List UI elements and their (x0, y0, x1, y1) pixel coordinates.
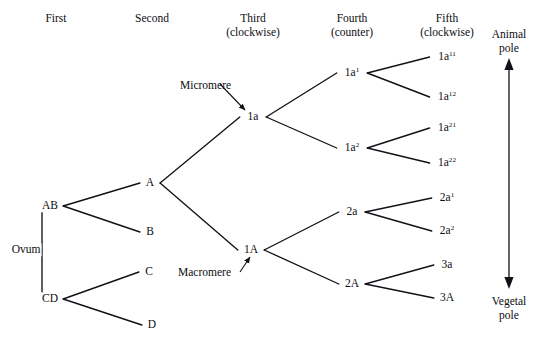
node-superscript: 21 (449, 121, 456, 129)
column-header-name: Third (240, 12, 266, 24)
node-base: 1a (438, 156, 449, 168)
animal-pole-line1: Animal (492, 28, 527, 40)
column-header-fourth: Fourth(counter) (331, 12, 373, 40)
column-header-third: Third(clockwise) (226, 12, 280, 40)
macromere-leader-arrow (240, 257, 250, 272)
node-label-AB: AB (41, 199, 59, 212)
edge-1a1-to-1a11 (367, 57, 429, 73)
node-superscript: 1 (356, 66, 360, 74)
node-base: 2A (345, 277, 359, 289)
column-header-name: Fifth (436, 12, 458, 24)
edge-1a-to-1a2 (266, 117, 337, 148)
edge-1A-to-2a (264, 212, 339, 250)
node-label-1a11: 1a11 (437, 50, 457, 63)
annotation-micromere: Micromere (180, 79, 231, 91)
node-superscript: 12 (449, 90, 456, 98)
column-header-second: Second (135, 12, 169, 26)
vegetal-pole-line1: Vegetal (492, 295, 526, 307)
node-base: 3A (440, 291, 454, 303)
node-label-ovum: Ovum (11, 243, 42, 256)
node-base: 1a (438, 90, 449, 102)
column-header-fifth: Fifth(clockwise) (420, 12, 474, 40)
node-base: C (145, 265, 153, 277)
edge-1a1-to-1a12 (367, 73, 429, 97)
edge-2a-to-2a2 (365, 212, 432, 231)
node-base: D (148, 318, 156, 330)
node-label-1a22: 1a22 (437, 156, 457, 169)
edge-AB-to-A (63, 183, 140, 206)
node-label-2a2: 2a2 (439, 224, 455, 237)
node-label-1a2: 1a2 (344, 141, 360, 154)
edge-1a-to-1a1 (266, 73, 337, 117)
node-label-1a21: 1a21 (437, 121, 457, 134)
column-header-name: Second (135, 12, 169, 24)
edge-layer (63, 57, 434, 325)
edge-1a2-to-1a22 (367, 148, 429, 163)
column-header-first: First (45, 12, 66, 26)
edge-A-to-1a (160, 117, 240, 183)
node-label-3A: 3A (439, 291, 455, 304)
node-label-1a12: 1a12 (437, 90, 457, 103)
edge-2A-to-3A (365, 284, 434, 298)
column-header-sub: (counter) (331, 26, 373, 40)
node-label-A: A (145, 176, 155, 189)
edge-1A-to-2A (264, 250, 339, 284)
column-header-name: Fourth (337, 12, 368, 24)
node-label-C: C (144, 265, 154, 278)
node-label-2a: 2a (346, 205, 359, 218)
node-label-CD: CD (41, 292, 59, 305)
node-label-D: D (147, 318, 157, 331)
node-label-2a1: 2a1 (439, 191, 455, 204)
column-header-sub: (clockwise) (226, 26, 280, 40)
spiral-cleavage-diagram: FirstSecondThird(clockwise)Fourth(counte… (0, 0, 533, 345)
node-base: 1a (438, 50, 449, 62)
node-base: CD (42, 292, 58, 304)
node-superscript: 2 (356, 141, 360, 149)
annotation-macromere: Macromere (178, 266, 231, 278)
vegetal-pole-arrowhead (504, 277, 513, 289)
node-base: 3a (442, 258, 453, 270)
node-base: AB (42, 199, 58, 211)
node-base: A (146, 176, 154, 188)
vegetal-pole-line2: pole (492, 309, 526, 323)
column-header-name: First (45, 12, 66, 24)
node-base: B (146, 225, 154, 237)
node-base: 1a (248, 110, 259, 122)
animal-pole-label: Animal pole (492, 28, 527, 56)
edge-1a2-to-1a21 (367, 128, 429, 148)
node-label-1a1: 1a1 (344, 66, 360, 79)
node-label-3a: 3a (441, 258, 454, 271)
node-label-1a: 1a (247, 110, 260, 123)
node-superscript: 11 (449, 50, 456, 58)
node-base: 2a (440, 191, 451, 203)
edge-A-to-1A (160, 183, 238, 250)
edge-AB-to-B (63, 206, 140, 232)
node-base: 1a (345, 66, 356, 78)
node-base: 1a (438, 121, 449, 133)
node-label-2A: 2A (344, 277, 360, 290)
node-base: 1a (345, 141, 356, 153)
edge-2A-to-3a (365, 265, 434, 284)
edge-2a-to-2a1 (365, 198, 432, 212)
edge-CD-to-C (63, 272, 139, 299)
animal-pole-line2: pole (492, 42, 527, 56)
node-base: 2a (440, 224, 451, 236)
node-label-B: B (145, 225, 155, 238)
vegetal-pole-label: Vegetal pole (492, 295, 526, 323)
node-superscript: 1 (451, 191, 455, 199)
node-label-1A: 1A (243, 243, 259, 256)
animal-pole-arrowhead (504, 58, 513, 70)
node-base: 1A (244, 243, 258, 255)
node-base: 2a (347, 205, 358, 217)
column-header-sub: (clockwise) (420, 26, 474, 40)
edge-CD-to-D (63, 299, 142, 325)
node-superscript: 22 (449, 156, 456, 164)
node-superscript: 2 (451, 224, 455, 232)
